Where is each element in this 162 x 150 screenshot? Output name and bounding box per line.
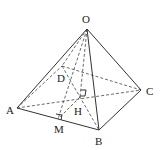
edge-OA: [17, 29, 87, 108]
label-O: O: [82, 13, 90, 25]
label-C: C: [146, 85, 153, 97]
label-M: M: [54, 123, 64, 135]
edge-OD: [62, 29, 87, 66]
edge-BC: [99, 90, 141, 130]
label-B: B: [95, 135, 102, 147]
label-H: H: [74, 105, 82, 117]
label-D: D: [57, 72, 65, 84]
edge-AD: [17, 66, 62, 108]
pyramid-diagram: O A B C D H M: [0, 0, 162, 150]
edge-OB: [87, 29, 99, 130]
edge-OC: [87, 29, 141, 90]
label-A: A: [6, 104, 14, 116]
